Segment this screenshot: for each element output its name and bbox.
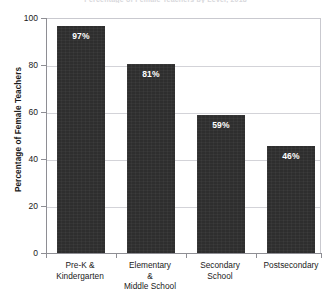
x-category-label-postsecondary: Postsecondary: [251, 260, 331, 271]
y-tick-mark-20: [41, 206, 46, 207]
x-tick-mark-3: [256, 253, 257, 258]
y-tick-mark-60: [41, 112, 46, 113]
y-tick-label: 80: [6, 60, 38, 70]
bar-pre-k-kindergarten: 97%: [57, 26, 105, 254]
y-tick-mark-100: [41, 18, 46, 19]
x-category-label-elementary-middle-school: Elementary & Middle School: [113, 260, 187, 292]
y-tick-mark-80: [41, 65, 46, 66]
bar-value-label: 46%: [267, 151, 315, 161]
x-tick-mark-0: [46, 253, 47, 258]
x-tick-mark-4: [321, 253, 322, 258]
chart-title: Percentage of Female Teachers by Level, …: [0, 0, 331, 3]
y-tick-label: 20: [6, 201, 38, 211]
y-axis-title: Percentage of Female Teachers: [14, 50, 23, 210]
plot-area: 97% 81% 59% 46%: [46, 18, 321, 253]
x-tick-mark-2: [186, 253, 187, 258]
bar-chart: Percentage of Female Teachers by Level, …: [0, 0, 331, 303]
y-axis-line: [46, 18, 47, 254]
bar-postsecondary: 46%: [267, 146, 315, 254]
bar-value-label: 59%: [197, 120, 245, 130]
x-tick-mark-1: [116, 253, 117, 258]
y-tick-label: 40: [6, 154, 38, 164]
bar-value-label: 81%: [127, 69, 175, 79]
x-category-label-pre-k-kindergarten: Pre-K & Kindergarten: [43, 260, 117, 281]
y-tick-label: 60: [6, 107, 38, 117]
bar-elementary-middle-school: 81%: [127, 64, 175, 254]
bar-value-label: 97%: [57, 31, 105, 41]
y-tick-mark-40: [41, 159, 46, 160]
y-tick-label: 0: [6, 248, 38, 258]
x-axis-line: [46, 253, 322, 254]
x-category-label-secondary-school: Secondary School: [183, 260, 257, 281]
y-tick-label: 100: [6, 13, 38, 23]
bar-secondary-school: 59%: [197, 115, 245, 254]
